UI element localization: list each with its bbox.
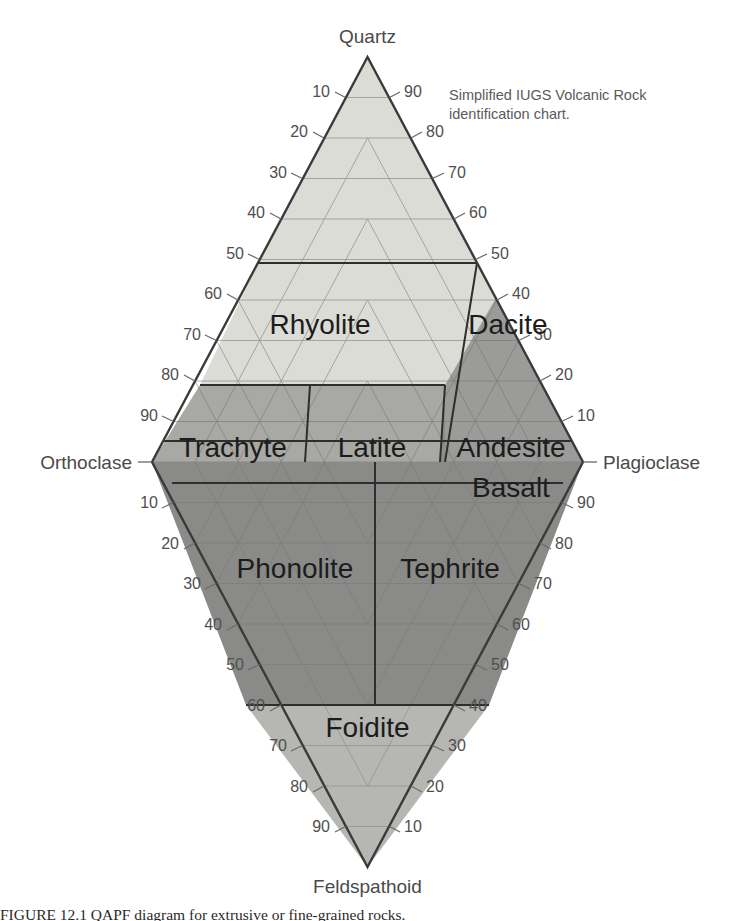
rock-label-phonolite: Phonolite <box>237 553 354 584</box>
tick-ll-3: 40 <box>204 616 222 633</box>
tick-ur-0: 90 <box>404 83 422 100</box>
tick-ll-0: 10 <box>140 494 158 511</box>
tick-ll-1: 20 <box>161 535 179 552</box>
tick-lr-5: 40 <box>469 697 487 714</box>
tick-ul-0: 10 <box>312 83 330 100</box>
tick-ll-7: 80 <box>290 778 308 795</box>
tick-lr-7: 20 <box>426 778 444 795</box>
tick-ur-5: 40 <box>512 285 530 302</box>
field-quartz-apex <box>258 57 477 263</box>
vertex-label-feldspathoid: Feldspathoid <box>313 876 422 897</box>
qapf-svg: 10 20 30 40 50 60 70 80 90 90 80 70 60 5… <box>0 0 735 921</box>
vertex-label-quartz: Quartz <box>339 26 396 47</box>
qapf-diagram: 10 20 30 40 50 60 70 80 90 90 80 70 60 5… <box>0 0 735 921</box>
rock-label-basalt: Basalt <box>472 472 550 503</box>
rock-label-foidite: Foidite <box>325 712 409 743</box>
caption-line-2: identification chart. <box>449 106 570 122</box>
tick-ll-4: 50 <box>226 656 244 673</box>
rock-label-rhyolite: Rhyolite <box>269 309 370 340</box>
rock-label-trachyte: Trachyte <box>179 432 287 463</box>
tick-ul-5: 60 <box>204 285 222 302</box>
caption-line-1: Simplified IUGS Volcanic Rock <box>449 87 647 103</box>
tick-ul-3: 40 <box>247 204 265 221</box>
rock-label-dacite: Dacite <box>468 309 547 340</box>
tick-ul-6: 70 <box>183 326 201 343</box>
rock-label-tephrite: Tephrite <box>400 553 500 584</box>
tick-ul-7: 80 <box>161 366 179 383</box>
tick-ur-7: 20 <box>555 366 573 383</box>
tick-lr-3: 60 <box>512 616 530 633</box>
tick-ur-3: 60 <box>469 204 487 221</box>
tick-ul-8: 90 <box>140 407 158 424</box>
tick-lr-6: 30 <box>448 737 466 754</box>
tick-ur-1: 80 <box>426 123 444 140</box>
tick-lr-4: 50 <box>491 656 509 673</box>
tick-lr-0: 90 <box>577 494 595 511</box>
vertex-label-orthoclase: Orthoclase <box>40 452 132 473</box>
rock-label-andesite: Andesite <box>457 432 566 463</box>
tick-ll-5: 60 <box>247 697 265 714</box>
tick-lr-8: 10 <box>404 818 422 835</box>
tick-ul-1: 20 <box>290 123 308 140</box>
tick-lr-2: 70 <box>534 575 552 592</box>
rock-label-latite: Latite <box>338 432 407 463</box>
tick-ll-6: 70 <box>269 737 287 754</box>
tick-ur-8: 10 <box>577 407 595 424</box>
tick-ur-4: 50 <box>491 245 509 262</box>
tick-lr-1: 80 <box>555 535 573 552</box>
figure-caption: FIGURE 12.1 QAPF diagram for extrusive o… <box>0 905 735 921</box>
tick-ll-2: 30 <box>183 575 201 592</box>
tick-ul-2: 30 <box>269 164 287 181</box>
vertex-label-plagioclase: Plagioclase <box>603 452 700 473</box>
tick-ll-8: 90 <box>312 818 330 835</box>
tick-ur-2: 70 <box>448 164 466 181</box>
tick-ul-4: 50 <box>226 245 244 262</box>
